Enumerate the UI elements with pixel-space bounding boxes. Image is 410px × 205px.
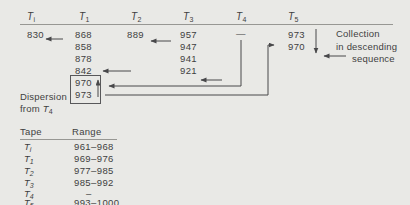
column-header-t3: T3 [183, 11, 194, 23]
table-header-tape: Tape [20, 126, 42, 137]
table-header-range: Range [72, 126, 102, 137]
cell-t4-empty-dash: — [236, 29, 246, 39]
column-header-t5: T5 [288, 11, 299, 23]
tape-sort-figure: Ti T1 T2 T3 T4 T5 830 868 858 878 842 97… [0, 0, 410, 205]
collection-label: Collection in descending sequence [336, 28, 397, 66]
collection-label-line2: in descending [336, 41, 397, 52]
column-header-t1: T1 [79, 11, 90, 23]
tape-range: 985–992 [74, 178, 114, 188]
collection-label-line3: sequence [352, 53, 397, 66]
cell-t3-941: 941 [180, 54, 197, 64]
column-header-t4: T4 [236, 11, 247, 23]
cell-t1-970-boxed: 970 [75, 78, 92, 88]
dispersion-label-line1: Dispersion [20, 91, 67, 102]
table-header-rule [20, 139, 117, 140]
cell-t1-858: 858 [75, 42, 92, 52]
tape-range: 977–985 [74, 166, 114, 176]
collection-label-line1: Collection [336, 28, 380, 39]
tape-name: T5 [24, 198, 34, 205]
cell-t2-889: 889 [127, 30, 144, 40]
header-rule [20, 24, 393, 25]
dispersion-label: Dispersion from T4 [20, 91, 67, 117]
cell-t3-957: 957 [180, 30, 197, 40]
cell-t3-947: 947 [180, 42, 197, 52]
cell-t1-973-boxed: 973 [75, 90, 92, 100]
cell-t3-921: 921 [180, 66, 197, 76]
dispersion-path-from-t4 [109, 40, 241, 86]
cell-ti-830: 830 [27, 30, 44, 40]
cell-t5-970: 970 [288, 42, 305, 52]
tape-range: 969–976 [74, 154, 114, 164]
column-header-ti: Ti [27, 11, 35, 23]
cell-t5-973: 973 [288, 30, 305, 40]
column-header-t2: T2 [131, 11, 142, 23]
tape-range: 993–1000 [74, 198, 119, 205]
cell-t1-868: 868 [75, 30, 92, 40]
cell-t1-878: 878 [75, 54, 92, 64]
dispersion-label-line2: from T4 [20, 103, 53, 114]
tape-range: 961–968 [74, 142, 114, 152]
